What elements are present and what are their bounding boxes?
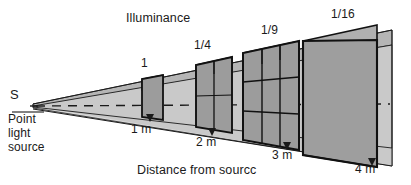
distance-label-4m: 4 m <box>355 163 375 176</box>
panel-4m-face <box>303 40 377 167</box>
panel-1m-face <box>142 75 163 120</box>
inverse-square-law-diagram: Illuminance S Point light source 1 1/4 1… <box>0 0 411 185</box>
panel-3m <box>243 41 299 150</box>
panel-1m <box>142 75 163 120</box>
panel-4m <box>303 25 377 167</box>
distance-label-3m: 3 m <box>272 149 292 162</box>
distance-label-1m: 1 m <box>131 123 151 136</box>
chart-title: Illuminance <box>126 12 190 25</box>
source-caption-line-2: light <box>8 127 31 141</box>
illuminance-label-1m: 1 <box>141 57 148 70</box>
source-symbol-label: S <box>10 88 19 101</box>
panel-2m <box>196 57 232 133</box>
diagram-canvas <box>0 0 411 185</box>
illuminance-label-2m: 1/4 <box>194 39 211 52</box>
panel-3m-face <box>243 41 299 150</box>
source-caption-line-3: source <box>8 141 45 155</box>
distance-label-2m: 2 m <box>196 136 216 149</box>
illuminance-label-3m: 1/9 <box>261 24 278 37</box>
source-caption-line-1: Point <box>8 113 36 127</box>
illuminance-label-4m: 1/16 <box>331 8 355 21</box>
x-axis-label: Distance from sourcc <box>137 164 256 177</box>
